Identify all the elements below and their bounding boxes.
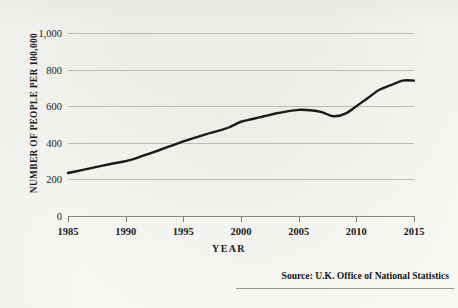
x-tick-label-1990: 1990 — [115, 226, 136, 237]
x-tick-mark-1985 — [68, 216, 69, 222]
y-tick-label-200: 200 — [46, 174, 62, 185]
line-chart-figure: NUMBER OF PEOPLE PER 100,000 02004006008… — [0, 0, 458, 308]
y-tick-label-0: 0 — [57, 211, 62, 222]
x-tick-mark-2015 — [414, 216, 415, 222]
series-path-number-of-people — [68, 80, 414, 173]
y-tick-label-600: 600 — [46, 101, 62, 112]
x-tick-label-2005: 2005 — [288, 226, 309, 237]
bottom-rule — [236, 288, 454, 289]
x-tick-label-2000: 2000 — [231, 226, 252, 237]
x-axis-title: YEAR — [0, 243, 458, 254]
x-tick-mark-2000 — [241, 216, 242, 222]
y-tick-label-800: 800 — [46, 64, 62, 75]
source-note: Source: U.K. Office of National Statisti… — [282, 270, 449, 281]
x-tick-label-1995: 1995 — [173, 226, 194, 237]
x-tick-mark-1990 — [126, 216, 127, 222]
x-tick-label-1985: 1985 — [58, 226, 79, 237]
x-tick-mark-1995 — [183, 216, 184, 222]
x-tick-mark-2010 — [356, 216, 357, 222]
y-axis-title: NUMBER OF PEOPLE PER 100,000 — [29, 13, 39, 213]
x-tick-label-2010: 2010 — [346, 226, 367, 237]
y-tick-label-1000: 1,000 — [38, 28, 62, 39]
plot-area: 02004006008001,000 198519901995200020052… — [68, 33, 414, 216]
y-tick-label-400: 400 — [46, 137, 62, 148]
chart-page: NUMBER OF PEOPLE PER 100,000 02004006008… — [0, 0, 458, 308]
x-tick-mark-2005 — [299, 216, 300, 222]
data-series-line — [68, 33, 414, 216]
x-tick-label-2015: 2015 — [404, 226, 425, 237]
